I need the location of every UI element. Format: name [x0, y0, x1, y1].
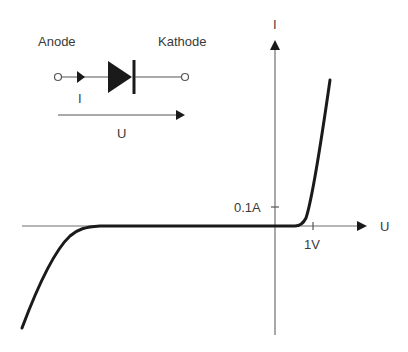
cathode-terminal-icon: [182, 74, 189, 81]
current-arrow-icon: [77, 71, 85, 83]
voltage-label: U: [117, 127, 126, 140]
y-axis-arrow-icon: [270, 40, 280, 50]
x-tick-label: 1V: [304, 238, 320, 251]
x-axis-arrow-icon: [357, 221, 367, 231]
anode-terminal-icon: [55, 74, 62, 81]
y-tick-label: 0.1A: [234, 201, 261, 214]
axes: [22, 40, 367, 335]
current-label: I: [78, 92, 82, 105]
y-axis-label: I: [273, 18, 277, 31]
anode-label: Anode: [38, 35, 76, 48]
x-axis-label: U: [380, 220, 389, 233]
diode-symbol: [55, 60, 189, 120]
diode-diagram: [0, 0, 408, 352]
cathode-label: Kathode: [158, 35, 206, 48]
diode-triangle-icon: [108, 61, 132, 93]
